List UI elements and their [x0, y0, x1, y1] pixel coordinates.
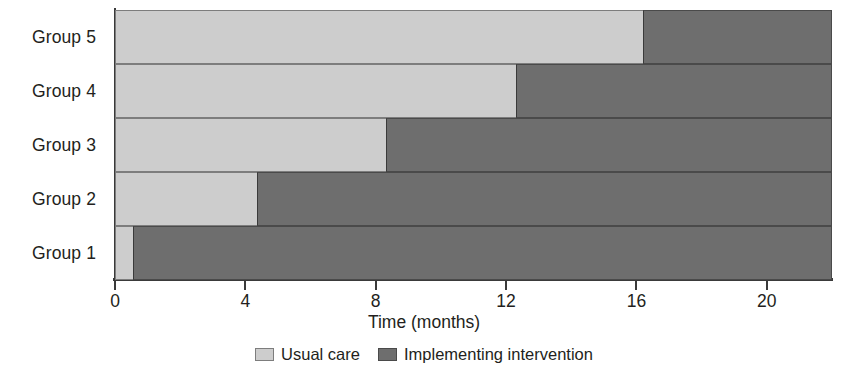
y-axis-label-group-5: Group 5: [32, 10, 96, 64]
bar-segment-usual-care: [115, 64, 516, 118]
implementing-intervention-swatch-icon: [378, 348, 397, 361]
x-axis-tick-label: 20: [747, 291, 787, 312]
x-axis-tick: [635, 281, 637, 290]
x-axis-title: Time (months): [0, 312, 848, 333]
x-axis-tick: [375, 281, 377, 290]
x-axis-tick: [114, 281, 116, 290]
x-axis-tick-label: 0: [95, 291, 135, 312]
legend-item-implementing-intervention: Implementing intervention: [378, 345, 593, 364]
x-axis-tick-label: 12: [486, 291, 526, 312]
usual-care-swatch-icon: [255, 348, 274, 361]
legend-label-usual-care: Usual care: [281, 345, 360, 364]
bar-row: [115, 226, 832, 280]
x-axis-tick-label: 4: [225, 291, 265, 312]
x-axis-tick: [505, 281, 507, 290]
plot-area: [115, 10, 832, 280]
y-axis-label-group-1: Group 1: [32, 226, 96, 280]
y-axis-category-labels: Group 5Group 4Group 3Group 2Group 1: [0, 10, 104, 280]
bar-segment-usual-care: [115, 10, 643, 64]
y-axis-label-group-4: Group 4: [32, 64, 96, 118]
bar-segment-usual-care: [115, 172, 257, 226]
x-axis-tick-label: 16: [616, 291, 656, 312]
legend-item-usual-care: Usual care: [255, 345, 360, 364]
bar-segment-implementing-intervention: [516, 64, 832, 118]
bar-segment-usual-care: [115, 226, 133, 280]
bar-row: [115, 10, 832, 64]
bar-row: [115, 64, 832, 118]
bar-row: [115, 118, 832, 172]
chart-legend: Usual care Implementing intervention: [0, 345, 848, 364]
bar-row: [115, 172, 832, 226]
stepped-wedge-chart: Group 5Group 4Group 3Group 2Group 1 Time…: [0, 0, 848, 387]
bar-segment-implementing-intervention: [257, 172, 832, 226]
bar-segment-implementing-intervention: [133, 226, 832, 280]
bar-segment-implementing-intervention: [643, 10, 832, 64]
bar-segment-usual-care: [115, 118, 386, 172]
bar-segment-implementing-intervention: [386, 118, 832, 172]
y-axis-label-group-3: Group 3: [32, 118, 96, 172]
x-axis-tick: [766, 281, 768, 290]
x-axis-tick: [244, 281, 246, 290]
legend-label-implementing-intervention: Implementing intervention: [404, 345, 593, 364]
y-axis-label-group-2: Group 2: [32, 172, 96, 226]
x-axis-tick-label: 8: [356, 291, 396, 312]
